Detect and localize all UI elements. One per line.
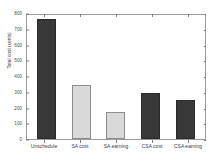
y-tick-mark-right <box>204 124 207 125</box>
y-tick-mark <box>26 45 29 46</box>
y-tick-mark-right <box>204 93 207 94</box>
x-tick-mark-top <box>80 14 81 17</box>
y-tick-mark <box>26 77 29 78</box>
y-tick-mark-right <box>204 46 207 47</box>
bar-unschedule <box>37 19 56 139</box>
y-tick-mark <box>26 108 29 109</box>
x-axis-labels: UnscheduleSA costSA earningCSA costCSA e… <box>26 144 206 149</box>
x-axis-label: Unschedule <box>26 144 62 149</box>
plot-area <box>26 14 206 140</box>
y-tick-label: 0 <box>19 138 22 143</box>
y-tick-mark <box>26 124 29 125</box>
x-tick-mark <box>80 140 81 143</box>
y-tick-mark <box>26 61 29 62</box>
y-tick-label: 500 <box>14 59 22 64</box>
y-tick-mark <box>26 14 29 15</box>
y-tick-mark-right <box>204 61 207 62</box>
x-axis-label: SA cost <box>62 144 98 149</box>
y-tick-mark-right <box>204 14 207 15</box>
y-tick-label: 400 <box>14 75 22 80</box>
y-tick-mark-right <box>204 140 207 141</box>
y-tick-mark <box>26 92 29 93</box>
bar-csa-earning <box>176 100 195 139</box>
bar-sa-earning <box>106 112 125 139</box>
x-tick-mark <box>116 140 117 143</box>
y-tick-label: 200 <box>14 106 22 111</box>
x-tick-mark-top <box>152 14 153 17</box>
x-axis-label: CSA cost <box>134 144 170 149</box>
x-tick-mark-top <box>116 14 117 17</box>
bar-sa-cost <box>72 85 91 139</box>
y-tick-label: 700 <box>14 27 22 32</box>
y-tick-label: 100 <box>14 122 22 127</box>
y-tick-label: 800 <box>14 12 22 17</box>
y-tick-mark-right <box>204 77 207 78</box>
y-tick-mark <box>26 140 29 141</box>
x-tick-mark <box>44 140 45 143</box>
y-tick-mark <box>26 29 29 30</box>
x-tick-mark <box>188 140 189 143</box>
x-tick-mark-top <box>44 14 45 17</box>
y-tick-mark-right <box>204 30 207 31</box>
y-tick-label: 300 <box>14 90 22 95</box>
bar-csa-cost <box>141 93 160 139</box>
x-axis-label: SA earning <box>98 144 134 149</box>
x-axis-label: CSA earning <box>170 144 206 149</box>
bar-chart-figure: 0100200300400500600700800 Total cost (ce… <box>0 0 215 166</box>
x-tick-mark <box>152 140 153 143</box>
y-tick-label: 600 <box>14 43 22 48</box>
bar-series <box>27 15 205 139</box>
y-axis-ticks: 0100200300400500600700800 <box>0 14 26 140</box>
y-axis-title: Total cost (cents) <box>8 14 13 86</box>
x-tick-mark-top <box>188 14 189 17</box>
y-tick-mark-right <box>204 109 207 110</box>
